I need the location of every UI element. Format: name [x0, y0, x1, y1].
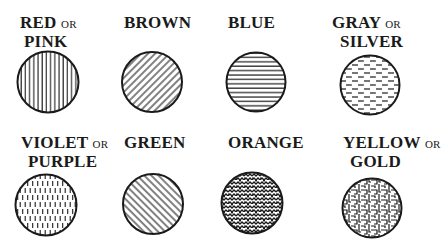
label-violet-or-purple: VIOLET OR PURPLE	[21, 134, 108, 170]
label-orange: ORANGE	[228, 134, 304, 151]
swatch-blue-horizontal-lines	[225, 52, 287, 114]
swatch-orange-zigzag	[220, 172, 284, 236]
label-blue: BLUE	[228, 14, 275, 31]
swatch-brown-diagonal-rising	[121, 51, 185, 115]
label-brown: BROWN	[124, 14, 191, 31]
swatch-red-vertical-lines	[16, 50, 80, 114]
swatch-yellow-fret	[341, 178, 403, 240]
swatch-violet-vertical-dashes	[14, 173, 78, 237]
label-gray-or-silver: GRAY OR SILVER	[332, 14, 403, 50]
label-red-or-pink: RED OR PINK	[20, 14, 77, 50]
swatch-green-diagonal-falling	[122, 173, 186, 237]
label-green: GREEN	[124, 134, 185, 151]
swatch-gray-horizontal-dashes	[339, 55, 401, 117]
label-yellow-or-gold: YELLOW OR GOLD	[343, 134, 441, 170]
